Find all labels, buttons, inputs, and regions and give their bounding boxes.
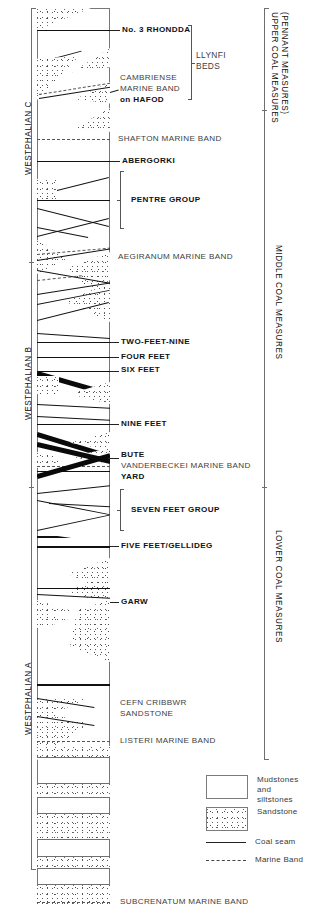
- marker-label-seven-feet-group: SEVEN FEET GROUP: [131, 505, 220, 515]
- sandstone-swatch-icon: [206, 807, 248, 831]
- marker-label-six-feet: SIX FEET: [121, 365, 160, 375]
- division-sublabel-pennant-measures: (PENNANT MEASURES): [280, 12, 289, 115]
- bracket-cap-top: [120, 489, 124, 490]
- bracket-cap-bottom: [120, 530, 124, 531]
- coal-seam-five-feet-gellideg: [37, 546, 110, 548]
- stage-label-westphalian-c: WESTPHALIAN C: [24, 101, 33, 175]
- coal-seam-pentre: [37, 200, 110, 201]
- legend-row-mudstone: Mudstones and siltstones: [206, 775, 306, 805]
- marker-label-vanderbeckei-marine-band: VANDERBECKEI MARINE BAND: [121, 461, 251, 471]
- leader-no-3-rhondda: [110, 30, 120, 31]
- leader-six-feet: [110, 371, 119, 372]
- leader-abergorki: [110, 161, 120, 162]
- legend-label-sandstone: Sandstone: [257, 807, 298, 817]
- bed-boundary: [37, 797, 110, 798]
- coal-seam-above-garw: [37, 588, 110, 589]
- coal-seam-six-feet: [37, 371, 110, 372]
- division-label-lower-coal-measures: LOWER COAL MEASURES: [274, 530, 283, 643]
- coal-seam-no-3-rhondda: [37, 30, 110, 31]
- coal-seam-nine-feet: [37, 424, 110, 425]
- leader-two-feet-nine: [110, 342, 119, 343]
- leader-garw: [110, 602, 119, 603]
- marker-label-two-feet-nine: TWO-FEET-NINE: [121, 337, 190, 347]
- coal-seam-base-westphalian-a-upper: [37, 684, 110, 686]
- bracket-nub: [117, 200, 120, 201]
- bracket-tick-wb-wa: [29, 487, 34, 488]
- marker-label-bute: BUTE: [121, 450, 145, 460]
- marine-band-listeri: [37, 741, 110, 742]
- sandstone-band: [37, 746, 110, 757]
- division-label-upper-coal-measures: UPPER COAL MEASURES: [270, 12, 279, 123]
- leader-nine-feet: [110, 424, 119, 425]
- bracket-spine: [264, 8, 265, 760]
- coal-seam-abergorki: [37, 161, 110, 162]
- leader-hafod: [110, 90, 119, 93]
- group-bracket-pentre: [120, 171, 126, 229]
- group-bracket-llynfi-beds: [186, 25, 192, 100]
- bed-boundary: [37, 884, 110, 885]
- marker-label-four-feet: FOUR FEET: [121, 352, 170, 362]
- marker-label-pentre-group: PENTRE GROUP: [131, 195, 201, 205]
- marker-label-shafton-marine-band: SHAFTON MARINE BAND: [118, 134, 222, 144]
- sandstone-band: [37, 856, 110, 868]
- marker-label-cambriense-line1: CAMBRIENSE: [120, 73, 177, 83]
- coal-seam-line-icon: [206, 842, 246, 843]
- bracket-cap-top: [31, 8, 36, 9]
- marker-label-yard: YARD: [121, 472, 145, 482]
- lithology-key: Mudstones and siltstones Sandstone Coal …: [206, 775, 306, 885]
- bed-boundary: [37, 813, 110, 814]
- marker-label-listeri-marine-band: LISTERI MARINE BAND: [120, 736, 216, 746]
- bed-boundary: [37, 757, 110, 758]
- sandstone-band: [37, 813, 110, 839]
- legend-label-marine-band: Marine Band: [255, 855, 303, 865]
- coal-seam-two-feet-nine: [37, 342, 110, 343]
- leader-bute: [110, 458, 119, 459]
- bracket-cap-bottom: [264, 759, 269, 760]
- sandstone-wedge: [37, 179, 57, 199]
- bracket-cap-bottom: [188, 99, 192, 100]
- marker-label-garw: GARW: [121, 597, 148, 607]
- bracket-nub: [192, 63, 195, 64]
- marine-band-shafton: [37, 139, 110, 140]
- marine-band-line-icon: [206, 860, 246, 861]
- group-label-llynfi-line1: LLYNFI: [196, 50, 226, 60]
- marine-band-subcrenatum: [37, 902, 110, 903]
- bed-boundary: [37, 856, 110, 857]
- legend-row-sandstone: Sandstone: [206, 807, 298, 831]
- bracket-spine: [120, 489, 121, 531]
- stratigraphic-column-figure: WESTPHALIAN C WESTPHALIAN B WESTPHALIAN …: [0, 0, 310, 913]
- marker-label-cefn-cribbwr-line1: CEFN CRIBBWR: [120, 698, 187, 708]
- marker-label-cefn-cribbwr-line2: SANDSTONE: [120, 709, 173, 719]
- bracket-tick-upper-middle: [262, 110, 267, 111]
- marker-label-cambriense-line2: MARINE BAND: [120, 84, 180, 94]
- leader-four-feet: [110, 357, 119, 358]
- legend-label-coal: Coal seam: [255, 837, 296, 847]
- leader-five-feet-gellideg: [110, 546, 119, 547]
- bed-boundary: [37, 839, 110, 840]
- group-label-llynfi-line2: BEDS: [196, 61, 220, 71]
- marker-label-on-hafod: on HAFOD: [120, 95, 164, 105]
- mudstone-swatch-icon: [206, 775, 248, 799]
- division-label-middle-coal-measures: MIDDLE COAL MEASURES: [274, 245, 283, 359]
- marker-label-nine-feet: NINE FEET: [121, 419, 167, 429]
- legend-label-mudstone: Mudstones and siltstones: [257, 775, 306, 805]
- marker-label-subcrenatum-marine-band: SUBCRENATUM MARINE BAND: [120, 897, 248, 907]
- bracket-cap-top: [264, 8, 269, 9]
- bed-boundary: [37, 783, 110, 784]
- marker-label-abergorki: ABERGORKI: [122, 156, 175, 166]
- bracket-tick-middle-lower: [262, 487, 267, 488]
- legend-row-marine-band: Marine Band: [206, 855, 303, 865]
- bracket-cap-top: [120, 171, 124, 172]
- bracket-tick-wc-wb: [29, 262, 34, 263]
- lithology-column: [37, 8, 110, 905]
- legend-row-coal: Coal seam: [206, 837, 296, 847]
- sandstone-wedge: [37, 376, 59, 394]
- group-bracket-seven-feet: [120, 489, 126, 531]
- marker-label-no-3-rhondda: No. 3 RHONDDA: [122, 25, 191, 35]
- bracket-spine: [120, 171, 121, 229]
- bracket-cap-bottom: [31, 869, 36, 870]
- stage-label-westphalian-a: WESTPHALIAN A: [24, 662, 33, 735]
- marker-label-aegiranum-marine-band: AEGIRANUM MARINE BAND: [118, 252, 233, 262]
- bracket-nub: [117, 510, 120, 511]
- stage-label-westphalian-b: WESTPHALIAN B: [24, 346, 33, 420]
